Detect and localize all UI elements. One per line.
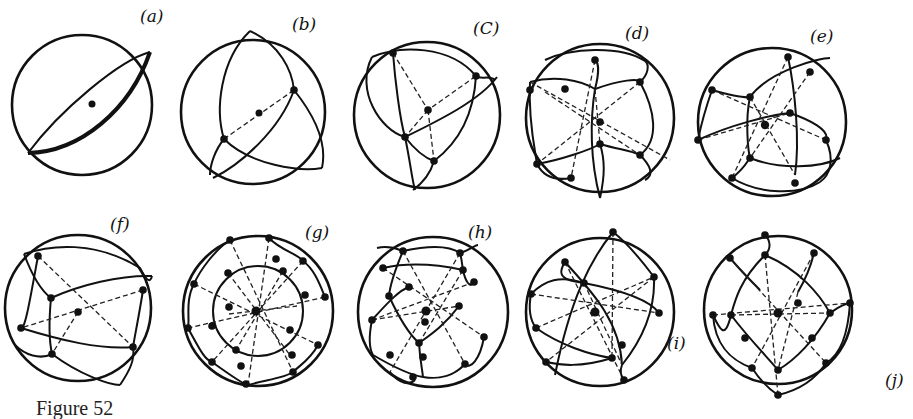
- panel-label-a: (a): [140, 6, 163, 26]
- panel-label-d: (d): [625, 23, 649, 43]
- sphere-j: [704, 231, 854, 399]
- panel-label-f: (f): [110, 214, 130, 234]
- panel-label-e: (e): [810, 26, 833, 46]
- panel-label-g: (g): [305, 222, 329, 242]
- sphere-e: [694, 48, 846, 196]
- panel-label-b: (b): [292, 14, 316, 34]
- panel-label-c: (C): [473, 18, 499, 38]
- panel-label-h: (h): [468, 222, 492, 242]
- sphere-g: [183, 234, 333, 388]
- panel-label-j: (j): [885, 370, 904, 390]
- figure-caption: Figure 52: [36, 398, 113, 418]
- sphere-b: [181, 31, 325, 184]
- sphere-i: [526, 228, 674, 386]
- panel-label-i: (i): [667, 333, 686, 353]
- sphere-c: [354, 42, 500, 190]
- sphere-d: [526, 44, 674, 198]
- sphere-f: [5, 235, 152, 385]
- sphere-h: [358, 237, 508, 387]
- sphere-a: [12, 35, 152, 175]
